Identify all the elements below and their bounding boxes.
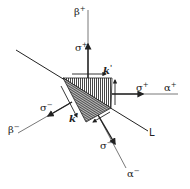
- beta-minus-label: β−: [8, 124, 20, 135]
- line-L-label: L: [149, 128, 155, 138]
- beta-plus-label: β+: [74, 6, 86, 17]
- sigma-plus-top-label: σ+: [75, 42, 88, 53]
- k-left-label: k': [69, 112, 78, 124]
- sigma-minus-left-label: σ−: [40, 102, 53, 113]
- sigma-minus-bottom-label: σ−: [100, 140, 113, 151]
- alpha-plus-label: α+: [164, 82, 177, 93]
- diagram-svg: [0, 0, 190, 189]
- sigma-plus-right-label: σ+: [136, 82, 149, 93]
- k-top-label: k': [103, 64, 112, 76]
- alpha-minus-label: α−: [127, 168, 140, 179]
- diagram-canvas: β+ α+ β− α− σ+ σ+ σ− σ− k' k' L: [0, 0, 190, 189]
